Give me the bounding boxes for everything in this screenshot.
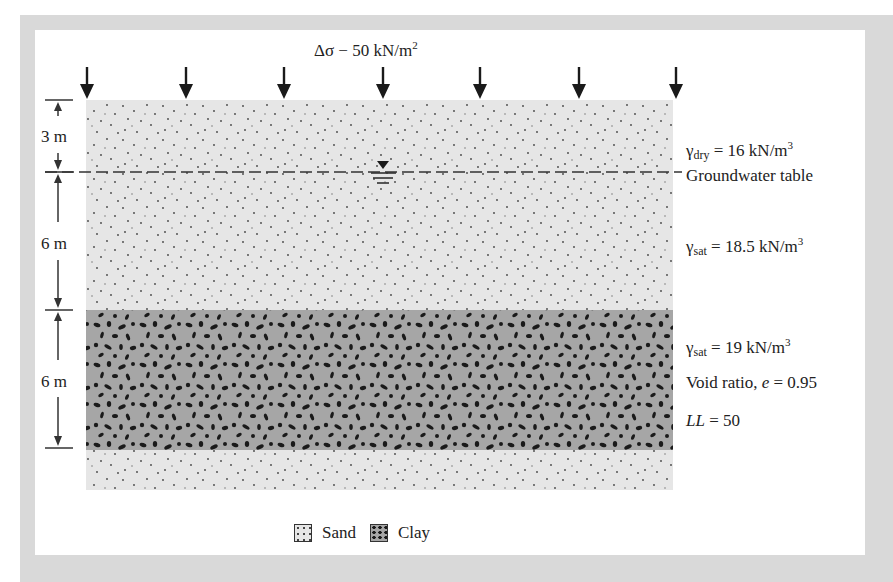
soil-profile-drawing: [0, 0, 893, 582]
down-arrow-icon: [669, 67, 683, 99]
dimension-label-3m: 3 m: [41, 128, 67, 145]
sand-layer-top: [86, 100, 673, 310]
void-ratio-text: Void ratio,: [686, 373, 762, 392]
gamma-value: = 19 kN/m: [707, 338, 785, 357]
dimension-label-6m-sand: 6 m: [41, 235, 67, 252]
void-ratio-value: = 0.95: [769, 373, 817, 392]
gamma-subscript: sat: [694, 244, 707, 258]
down-arrow-icon: [572, 67, 586, 99]
liquid-limit-label: LL = 50: [686, 412, 740, 429]
down-arrow-icon: [473, 67, 487, 99]
gamma-value: = 18.5 kN/m: [707, 237, 798, 256]
load-arrows: [80, 67, 683, 99]
unit-exponent: 3: [798, 235, 804, 247]
gamma-subscript: sat: [694, 345, 707, 359]
sand-layer-bottom: [86, 450, 673, 490]
void-ratio-label: Void ratio, e = 0.95: [686, 374, 817, 391]
load-label: Δσ − 50 kN/m2: [314, 40, 418, 59]
legend: Sand Clay: [294, 523, 430, 543]
gamma-symbol: γ: [686, 141, 694, 160]
clay-layer: [86, 310, 673, 450]
gamma-sat-clay-label: γsat = 19 kN/m3: [686, 337, 790, 358]
down-arrow-icon: [179, 67, 193, 99]
down-arrow-icon: [80, 67, 94, 99]
unit-exponent: 3: [788, 139, 794, 151]
dimension-label-6m-clay: 6 m: [41, 373, 67, 390]
sand-swatch-icon: [294, 524, 312, 542]
gamma-symbol: γ: [686, 338, 694, 357]
gamma-value: = 16 kN/m: [710, 141, 788, 160]
dimension-lines: [45, 100, 73, 448]
down-arrow-icon: [376, 67, 390, 99]
load-label-text: Δσ − 50 kN/m: [314, 41, 412, 60]
legend-sand-label: Sand: [322, 523, 356, 543]
clay-swatch-icon: [370, 524, 388, 542]
gamma-dry-label: γdry = 16 kN/m3: [686, 140, 793, 161]
legend-clay-label: Clay: [398, 523, 430, 543]
gamma-symbol: γ: [686, 237, 694, 256]
down-arrow-icon: [277, 67, 291, 99]
liquid-limit-value: = 50: [705, 411, 740, 430]
load-label-sup: 2: [412, 39, 418, 51]
gamma-sat-sand-label: γsat = 18.5 kN/m3: [686, 236, 803, 257]
gamma-subscript: dry: [694, 148, 710, 162]
unit-exponent: 3: [785, 336, 791, 348]
groundwater-table-label: Groundwater table: [686, 167, 813, 184]
liquid-limit-symbol: LL: [686, 411, 705, 430]
